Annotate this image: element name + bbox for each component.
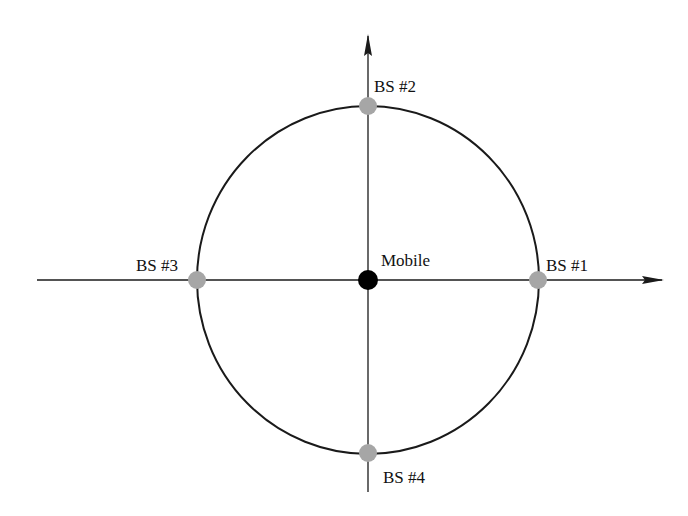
mobile-label: Mobile — [381, 251, 430, 270]
mobile-node — [358, 270, 378, 290]
base-station-4-node — [359, 444, 377, 462]
base-station-3-label: BS #3 — [136, 256, 178, 275]
base-station-2-node — [359, 97, 377, 115]
base-station-2-label: BS #2 — [374, 77, 416, 96]
base-station-4-label: BS #4 — [383, 468, 426, 487]
base-station-1-label: BS #1 — [546, 256, 588, 275]
base-station-3-node — [188, 271, 206, 289]
base-station-1-node — [529, 271, 547, 289]
bs-geometry-diagram: BS #1 BS #2 BS #3 BS #4 Mobile — [0, 0, 688, 516]
